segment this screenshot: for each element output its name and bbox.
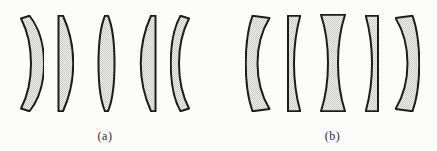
group-a-label-wrap: (a) — [14, 129, 196, 144]
lens-outline-concave-meniscus-convex-right — [396, 16, 420, 112]
lens-diagram: (a) (b) — [0, 0, 437, 151]
lens-outline-concave-meniscus-convex-left — [246, 16, 270, 112]
lens-concave-meniscus-convex-right — [395, 15, 420, 112]
lens-outline-plano-concave-flat-right — [366, 16, 378, 112]
lens-biconcave — [320, 14, 346, 112]
lens-concave-meniscus-convex-left — [245, 15, 271, 112]
lens-plano-concave-flat-right — [365, 15, 379, 112]
group-b-label-wrap: (b) — [245, 129, 420, 144]
lens-outline-plano-concave-flat-left — [288, 16, 300, 112]
lens-plano-concave-flat-left — [287, 15, 301, 112]
group-b-label: (b) — [325, 129, 341, 143]
lens-outline-biconcave — [321, 15, 345, 112]
group-a-label: (a) — [98, 129, 113, 143]
